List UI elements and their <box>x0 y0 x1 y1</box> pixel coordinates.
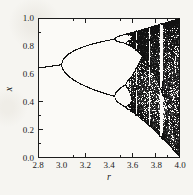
y-axis-label: x <box>4 83 14 95</box>
x-tick-label: 3.4 <box>103 161 114 170</box>
x-tick-label: 3.6 <box>127 161 138 170</box>
x-tick-label: 4.0 <box>174 161 185 170</box>
plot-area <box>38 18 180 158</box>
x-tick-label: 3.2 <box>80 161 91 170</box>
x-axis-label: r <box>38 172 180 182</box>
y-tick-label: 0.0 <box>0 154 34 163</box>
y-tick-label: 0.8 <box>0 42 34 51</box>
bifurcation-figure: 2.83.03.23.43.63.84.00.00.20.40.60.81.0 … <box>0 0 193 195</box>
x-tick-label: 3.0 <box>56 161 67 170</box>
y-tick-label: 0.4 <box>0 98 34 107</box>
y-tick-label: 0.2 <box>0 126 34 135</box>
x-tick-label: 3.8 <box>151 161 162 170</box>
bifurcation-plot-canvas <box>38 18 180 158</box>
x-tick-label: 2.8 <box>32 161 43 170</box>
y-tick-label: 1.0 <box>0 14 34 23</box>
y-tick-label: 0.6 <box>0 70 34 79</box>
